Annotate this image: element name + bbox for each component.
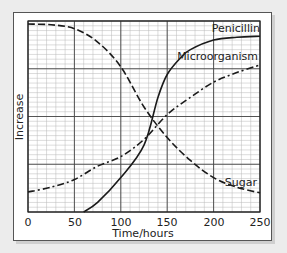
x-tick-200: 200 <box>204 216 225 229</box>
microorganism-label: Microorganism <box>177 50 258 63</box>
penicillin-label: Penicillin <box>212 22 260 35</box>
line-chart: 0 50 100 150 200 250 Time/hours Increase… <box>0 0 287 253</box>
x-tick-50: 50 <box>68 216 82 229</box>
x-tick-0: 0 <box>25 216 32 229</box>
y-axis-label: Increase <box>13 93 26 140</box>
x-tick-250: 250 <box>250 216 271 229</box>
microorganism-line <box>28 65 260 192</box>
sugar-label: Sugar <box>225 176 258 189</box>
x-axis-label: Time/hours <box>111 227 174 240</box>
